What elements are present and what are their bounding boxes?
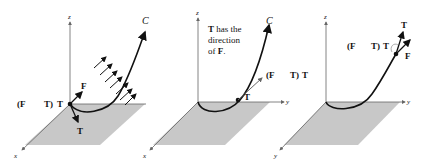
x-axis-label: y (273, 152, 278, 160)
z-axis-label: z (195, 9, 199, 17)
projection-label-t: T (57, 99, 63, 109)
projection-label-open: (F (17, 99, 26, 109)
projection-label-close: T) (44, 99, 53, 109)
f-label: F (405, 51, 411, 61)
curve-c (326, 54, 396, 109)
x-axis-label: x (142, 152, 147, 160)
y-axis-label-left-panel: y (285, 98, 290, 106)
projection-label-close: T) (290, 70, 299, 80)
panel-middle: z x y T has the direction of F. C T (F T… (142, 9, 308, 160)
xy-plane (153, 102, 270, 145)
panel-left: z x C F T (F T) T (13, 13, 149, 160)
projection-label-open: (F (347, 41, 356, 51)
f-label: F (81, 81, 87, 91)
caption-line-1: T has the (208, 24, 242, 34)
projection-label-close: T) (371, 41, 380, 51)
xy-plane (25, 104, 145, 145)
panel-right: z y y T F (F T) T (273, 13, 411, 160)
caption-line-2: direction (208, 35, 240, 45)
curve-c (70, 32, 145, 112)
t-label: T (401, 20, 407, 30)
f-vector (70, 92, 82, 104)
z-axis-label: z (67, 13, 71, 21)
t-label: T (244, 92, 250, 102)
t-label: T (77, 126, 83, 136)
y-axis-label: y (406, 98, 411, 106)
tangent-force-diagram: z x C F T (F T) T z (0, 0, 429, 163)
curve-c-label: C (266, 15, 273, 26)
x-axis-label: x (13, 152, 18, 160)
projection-label-t: T (302, 70, 308, 80)
caption-line-3: of F. (208, 46, 226, 56)
curve-c-label: C (142, 15, 149, 26)
projection-label-t: T (383, 41, 389, 51)
force-field-arrows (94, 57, 136, 105)
z-axis-label: z (323, 13, 327, 21)
projection-label-open: (F (266, 70, 275, 80)
